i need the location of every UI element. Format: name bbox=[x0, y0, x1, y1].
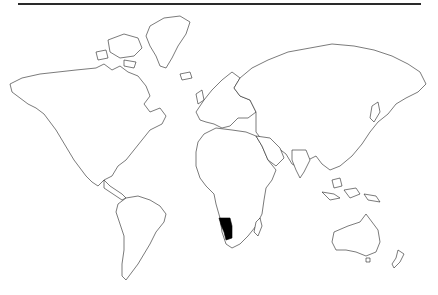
southeast-asia-islands bbox=[322, 178, 380, 202]
tasmania bbox=[366, 258, 370, 262]
australia bbox=[332, 214, 380, 256]
arctic-islands bbox=[96, 34, 142, 68]
greenland bbox=[146, 16, 190, 68]
new-zealand bbox=[392, 250, 404, 268]
iceland bbox=[180, 72, 192, 80]
namibia-highlighted bbox=[219, 218, 232, 240]
india bbox=[292, 150, 310, 178]
north-america bbox=[10, 64, 166, 186]
central-america bbox=[104, 180, 126, 200]
south-america bbox=[116, 196, 166, 280]
world-map bbox=[0, 0, 438, 295]
